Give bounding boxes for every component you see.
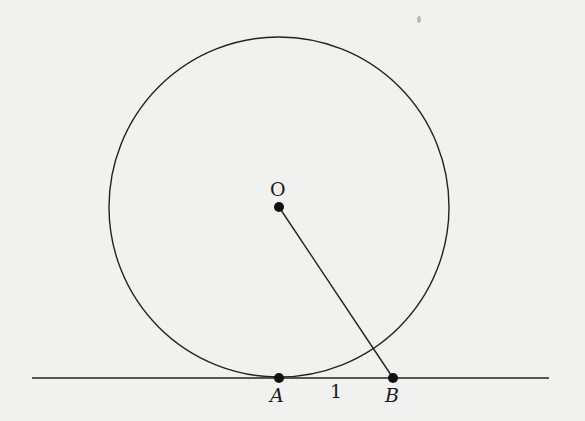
- label-b: B: [385, 386, 399, 405]
- point-o-dot: [274, 202, 284, 212]
- diagram-canvas: O A B 1: [0, 0, 585, 421]
- label-ab-length: 1: [330, 382, 342, 401]
- point-a-dot: [274, 373, 284, 383]
- point-b-dot: [388, 373, 398, 383]
- geometry-figure: [0, 0, 585, 421]
- label-o: O: [270, 180, 286, 199]
- label-a: A: [270, 386, 284, 405]
- segment-ob: [279, 207, 393, 378]
- paper-speck: [417, 16, 421, 23]
